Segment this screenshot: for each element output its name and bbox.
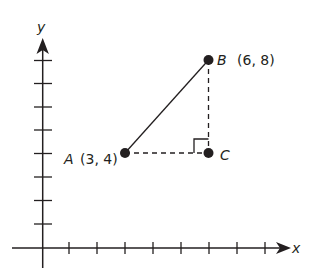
point-B-name: B <box>217 52 227 68</box>
coordinate-diagram: x y A (3, 4) B (6, 8) C <box>0 0 314 279</box>
point-C <box>204 148 214 158</box>
point-B <box>204 55 214 65</box>
point-B-coords: (6, 8) <box>237 52 275 68</box>
point-A-coords: (3, 4) <box>80 151 118 167</box>
point-A <box>120 148 130 158</box>
y-axis-label: y <box>36 19 46 35</box>
point-B-label: B (6, 8) <box>217 52 275 68</box>
point-A-label: A (3, 4) <box>63 151 118 167</box>
point-A-name: A <box>63 151 74 167</box>
point-C-label: C <box>220 147 230 163</box>
x-axis-label: x <box>291 240 301 256</box>
